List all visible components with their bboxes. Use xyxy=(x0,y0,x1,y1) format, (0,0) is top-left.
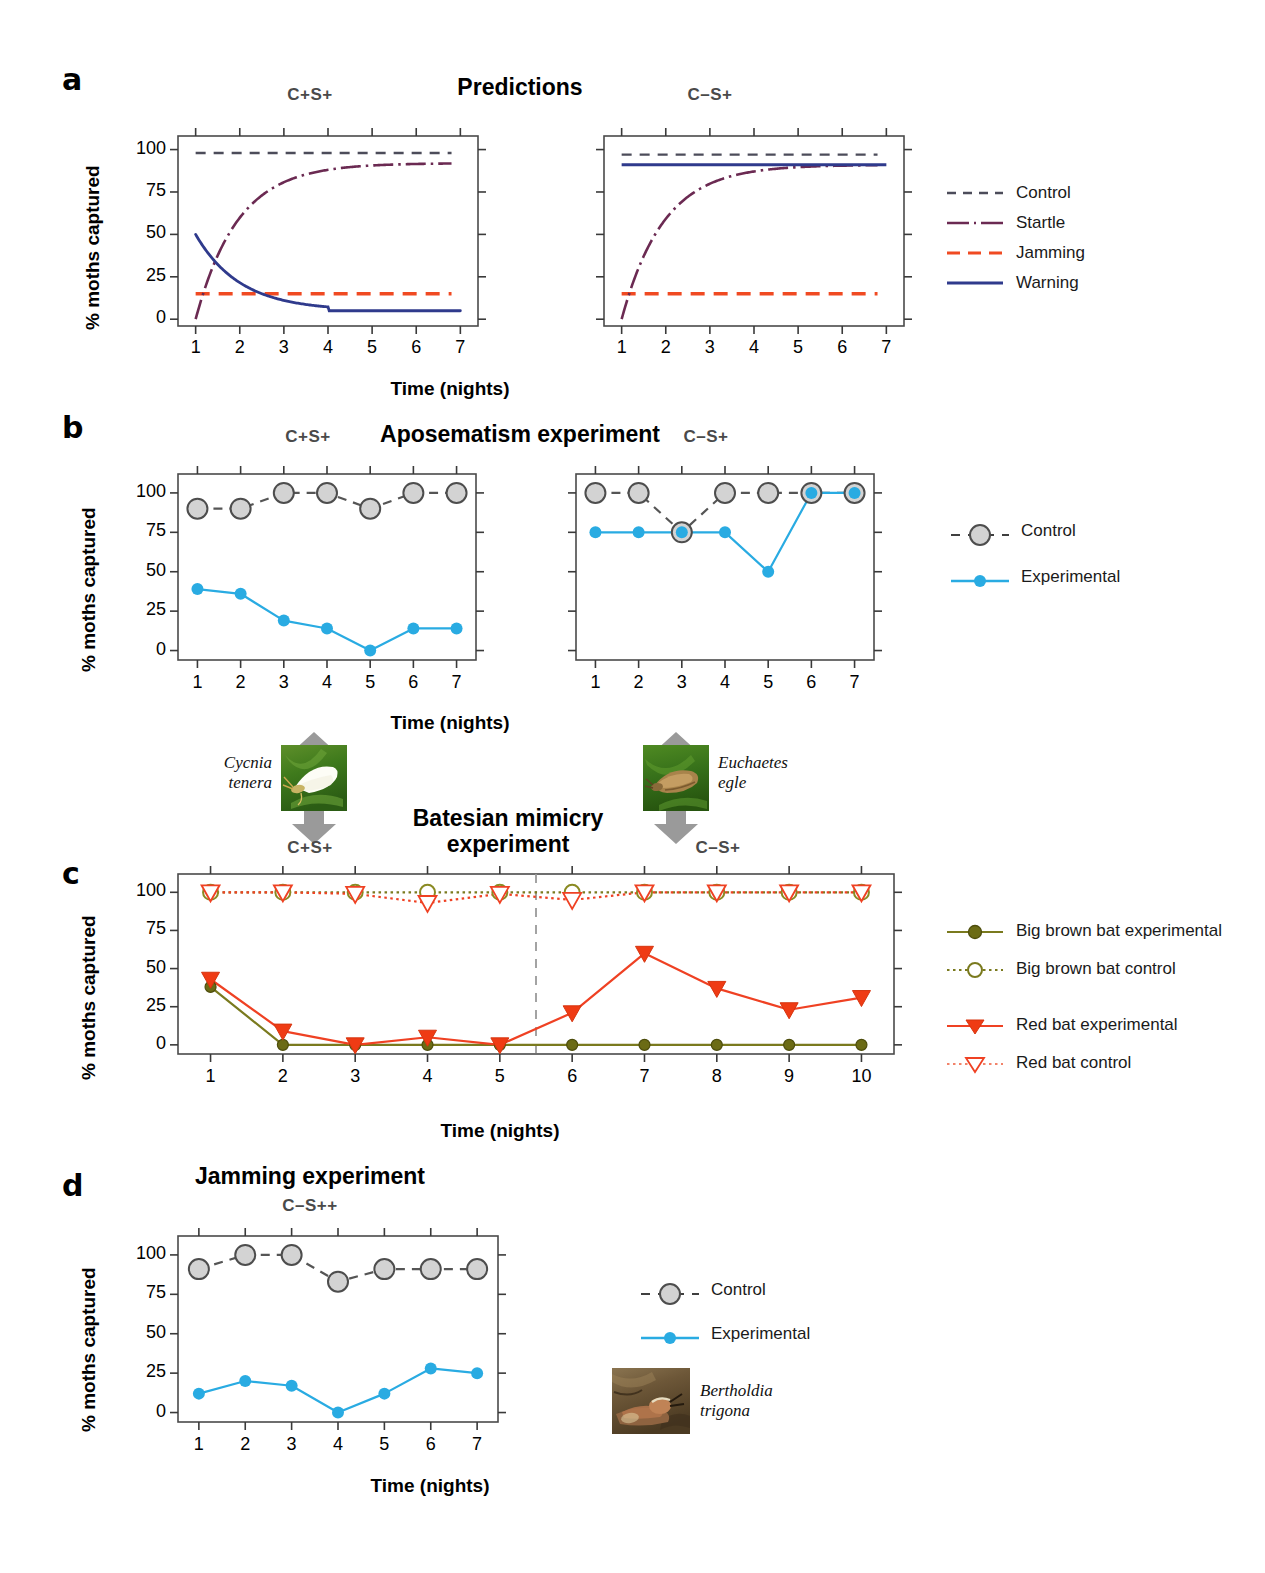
legend-label: Experimental xyxy=(711,1324,810,1344)
y-tick-label: 75 xyxy=(120,918,166,939)
x-tick-label: 6 xyxy=(822,337,862,358)
species-label-cycnia-tenera: Cycnia tenera xyxy=(196,753,272,792)
panel-d-x-axis-title: Time (nights) xyxy=(310,1475,550,1497)
panel-d-condition: C–S++ xyxy=(250,1196,370,1216)
x-tick-label: 5 xyxy=(350,672,390,693)
x-tick-label: 4 xyxy=(308,337,348,358)
x-tick-label: 3 xyxy=(690,337,730,358)
legend-item-control: Control xyxy=(640,1268,810,1312)
legend-item-jamming: Jamming xyxy=(945,238,1085,268)
y-tick-label: 0 xyxy=(120,307,166,328)
x-tick-label: 3 xyxy=(264,337,304,358)
y-tick-label: 50 xyxy=(120,957,166,978)
panel-d-title: Jamming experiment xyxy=(160,1164,460,1190)
panel-a-x-axis-title: Time (nights) xyxy=(330,378,570,400)
y-tick-label: 100 xyxy=(120,880,166,901)
panel-a-left-chart xyxy=(122,126,490,344)
legend-label: Red bat control xyxy=(1016,1053,1131,1073)
panel-b-right-condition: C–S+ xyxy=(646,427,766,447)
panel-d-legend: Control Experimental xyxy=(640,1268,810,1356)
legend-item-experimental: Experimental xyxy=(950,554,1120,600)
legend-item-bbb-experimental: Big brown bat experimental xyxy=(945,912,1222,950)
panel-b-x-axis-title: Time (nights) xyxy=(330,712,570,734)
x-tick-label: 3 xyxy=(335,1066,375,1087)
x-tick-label: 4 xyxy=(705,672,745,693)
x-tick-label: 8 xyxy=(697,1066,737,1087)
x-tick-label: 4 xyxy=(408,1066,448,1087)
legend-label: Big brown bat experimental xyxy=(1016,921,1222,941)
panel-b-legend: Control Experimental xyxy=(950,508,1120,600)
legend-item-red-control: Red bat control xyxy=(945,1044,1222,1082)
x-tick-label: 4 xyxy=(307,672,347,693)
x-tick-label: 4 xyxy=(318,1434,358,1455)
legend-item-control: Control xyxy=(945,178,1085,208)
y-tick-label: 0 xyxy=(120,1401,166,1422)
x-tick-label: 7 xyxy=(866,337,906,358)
species-epithet: egle xyxy=(718,773,828,793)
x-tick-label: 7 xyxy=(457,1434,497,1455)
y-tick-label: 0 xyxy=(120,1033,166,1054)
x-tick-label: 5 xyxy=(778,337,818,358)
panel-a-left-condition: C+S+ xyxy=(250,85,370,105)
legend-label: Control xyxy=(1016,183,1071,203)
panel-d-chart xyxy=(122,1222,518,1444)
species-label-euchaetes-egle: Euchaetes egle xyxy=(718,753,828,792)
legend-item-experimental: Experimental xyxy=(640,1312,810,1356)
panel-c-right-condition: C–S+ xyxy=(658,838,778,858)
x-tick-label: 6 xyxy=(411,1434,451,1455)
panel-d-y-axis-title: % moths captured xyxy=(78,1267,100,1432)
species-genus: Bertholdia xyxy=(700,1381,830,1401)
x-tick-label: 1 xyxy=(575,672,615,693)
y-tick-label: 25 xyxy=(120,995,166,1016)
red-control-swatch xyxy=(945,1053,1005,1073)
legend-label: Control xyxy=(711,1280,766,1300)
panel-b-left-chart xyxy=(122,462,490,680)
experimental-marker-swatch xyxy=(640,1324,700,1344)
species-genus: Euchaetes xyxy=(718,753,828,773)
panel-letter-a: a xyxy=(62,62,82,97)
startle-line-swatch xyxy=(945,213,1005,233)
legend-item-control: Control xyxy=(950,508,1120,554)
x-tick-label: 2 xyxy=(220,337,260,358)
x-tick-label: 5 xyxy=(480,1066,520,1087)
x-tick-label: 1 xyxy=(602,337,642,358)
control-line-swatch xyxy=(945,183,1005,203)
panel-c-title: Batesian mimicry experiment xyxy=(378,806,638,858)
legend-label: Experimental xyxy=(1021,567,1120,587)
panel-b-left-condition: C+S+ xyxy=(248,427,368,447)
warning-line-swatch xyxy=(945,273,1005,293)
panel-c-chart xyxy=(122,860,912,1086)
legend-label: Red bat experimental xyxy=(1016,1015,1178,1035)
x-tick-label: 6 xyxy=(791,672,831,693)
y-tick-label: 100 xyxy=(120,481,166,502)
jamming-line-swatch xyxy=(945,243,1005,263)
y-tick-label: 75 xyxy=(120,1282,166,1303)
panel-b-right-chart xyxy=(520,462,888,680)
x-tick-label: 9 xyxy=(769,1066,809,1087)
species-label-bertholdia-trigona: Bertholdia trigona xyxy=(700,1381,830,1420)
panel-letter-b: b xyxy=(62,410,83,445)
x-tick-label: 1 xyxy=(191,1066,231,1087)
x-tick-label: 5 xyxy=(352,337,392,358)
panel-a-legend: Control Startle Jamming Warning xyxy=(945,178,1085,298)
legend-label: Big brown bat control xyxy=(1016,959,1176,979)
legend-label: Warning xyxy=(1016,273,1079,293)
y-tick-label: 50 xyxy=(120,222,166,243)
panel-c-y-axis-title: % moths captured xyxy=(78,915,100,1080)
species-genus: Cycnia xyxy=(196,753,272,773)
x-tick-label: 2 xyxy=(619,672,659,693)
x-tick-label: 6 xyxy=(396,337,436,358)
panel-b-y-axis-title: % moths captured xyxy=(78,507,100,672)
panel-letter-c: c xyxy=(62,856,80,891)
red-experimental-swatch xyxy=(945,1015,1005,1035)
x-tick-label: 7 xyxy=(624,1066,664,1087)
photo-euchaetes-egle xyxy=(643,745,709,811)
y-tick-label: 50 xyxy=(120,560,166,581)
panel-c-left-condition: C+S+ xyxy=(250,838,370,858)
x-tick-label: 2 xyxy=(263,1066,303,1087)
x-tick-label: 7 xyxy=(440,337,480,358)
x-tick-label: 10 xyxy=(841,1066,881,1087)
x-tick-label: 3 xyxy=(662,672,702,693)
bbb-experimental-swatch xyxy=(945,921,1005,941)
legend-item-red-experimental: Red bat experimental xyxy=(945,1006,1222,1044)
